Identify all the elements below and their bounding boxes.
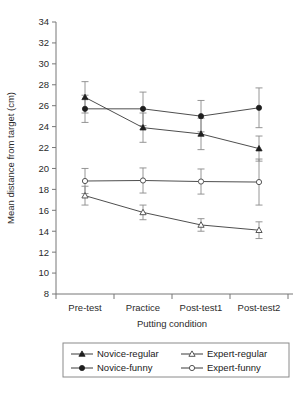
error-bars-expert-regular xyxy=(82,186,263,238)
data-point xyxy=(256,105,261,110)
data-point xyxy=(198,114,203,119)
y-tick-label: 16 xyxy=(38,205,49,216)
data-point xyxy=(140,178,145,183)
legend-label: Novice-regular xyxy=(97,348,159,359)
y-tick-label: 18 xyxy=(38,184,49,195)
legend-label: Expert-regular xyxy=(207,348,267,359)
series-line xyxy=(85,196,259,231)
series-novice-regular xyxy=(82,94,262,151)
legend-marker-open-circle xyxy=(189,365,194,370)
x-tick-label: Pre-test xyxy=(68,302,102,313)
data-point xyxy=(198,179,203,184)
y-axis-title: Mean distance from target (cm) xyxy=(5,92,16,224)
y-tick-label: 10 xyxy=(38,267,49,278)
y-tick-label: 24 xyxy=(38,121,49,132)
series-novice-funny xyxy=(82,105,261,119)
y-tick-label: 14 xyxy=(38,226,49,237)
y-tick-label: 22 xyxy=(38,142,49,153)
series-expert-regular xyxy=(82,193,262,233)
data-point xyxy=(82,106,87,111)
y-tick-label: 12 xyxy=(38,247,49,258)
data-point xyxy=(82,178,87,183)
line-chart: 810121416182022242628303234Pre-testPract… xyxy=(0,0,301,395)
series-line xyxy=(85,108,259,116)
error-bars-novice-regular xyxy=(82,82,263,162)
data-point xyxy=(256,179,261,184)
y-tick-label: 20 xyxy=(38,163,49,174)
series-line xyxy=(85,97,259,148)
legend: Novice-regularExpert-regularNovice-funny… xyxy=(63,343,289,377)
series-line xyxy=(85,180,259,182)
figure-caption-fragment xyxy=(6,385,295,394)
y-tick-label: 8 xyxy=(44,288,49,299)
y-tick-label: 34 xyxy=(38,16,49,27)
x-tick-label: Post-test2 xyxy=(238,302,281,313)
x-axis-title: Putting condition xyxy=(137,318,207,329)
chart-figure: 810121416182022242628303234Pre-testPract… xyxy=(0,0,301,395)
y-tick-label: 28 xyxy=(38,79,49,90)
legend-marker-filled-circle xyxy=(79,365,84,370)
x-tick-label: Practice xyxy=(126,302,160,313)
legend-label: Expert-funny xyxy=(207,362,261,373)
y-tick-label: 26 xyxy=(38,100,49,111)
y-tick-label: 30 xyxy=(38,58,49,69)
axes-group: 810121416182022242628303234Pre-testPract… xyxy=(5,16,293,329)
legend-label: Novice-funny xyxy=(97,362,153,373)
y-tick-label: 32 xyxy=(38,37,49,48)
data-point xyxy=(140,106,145,111)
series-expert-funny xyxy=(82,178,261,185)
x-tick-label: Post-test1 xyxy=(180,302,223,313)
